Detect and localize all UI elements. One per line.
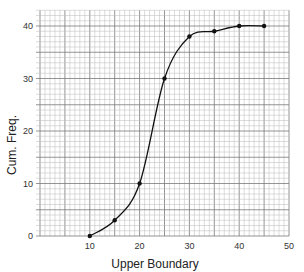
svg-text:20: 20	[23, 126, 33, 136]
x-axis-label: Upper Boundary	[111, 257, 198, 271]
svg-text:40: 40	[23, 21, 33, 31]
data-point	[187, 34, 191, 38]
data-point	[113, 218, 117, 222]
data-point	[237, 24, 241, 28]
svg-text:50: 50	[284, 241, 294, 251]
svg-text:20: 20	[135, 241, 145, 251]
data-point	[88, 234, 92, 238]
data-point	[137, 181, 141, 185]
data-point	[262, 24, 266, 28]
svg-text:10: 10	[85, 241, 95, 251]
svg-text:30: 30	[23, 74, 33, 84]
data-point	[162, 76, 166, 80]
svg-text:0: 0	[28, 231, 33, 241]
svg-text:40: 40	[234, 241, 244, 251]
x-axis-ticks: 1020304050	[85, 241, 294, 251]
y-axis-label: Cum. Freq.	[5, 115, 19, 175]
ogive-chart: 010203040 1020304050 Upper Boundary Cum.…	[0, 0, 304, 272]
y-axis-ticks: 010203040	[23, 21, 33, 241]
svg-text:10: 10	[23, 179, 33, 189]
svg-text:30: 30	[184, 241, 194, 251]
grid	[36, 10, 289, 236]
data-point	[212, 29, 216, 33]
